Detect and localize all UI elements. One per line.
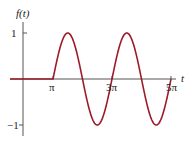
x-tick-label-3pi: 3π — [106, 82, 117, 93]
x-tick-label-pi: π — [49, 82, 55, 93]
x-tick-label-5pi: 5π — [166, 82, 177, 93]
plot-area — [0, 0, 194, 144]
y-tick-label-minus1: −1 — [7, 120, 19, 131]
y-axis-label: f(t) — [16, 8, 29, 19]
x-axis-label: t — [181, 73, 184, 84]
y-tick-label-1: 1 — [11, 28, 17, 39]
